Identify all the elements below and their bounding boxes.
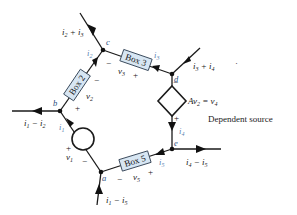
box-3: Box 3 (120, 49, 152, 70)
label-i4-minus-i5: i4 − i5 (186, 157, 208, 168)
current-arrows (32, 24, 206, 194)
arrow-e-external-icon (196, 145, 206, 153)
dependent-source-diamond (158, 86, 186, 116)
node-label-a: a (102, 173, 106, 183)
label-i1-minus-i2: i1 − i2 (24, 118, 46, 129)
dependent-source-caption: Dependent source (208, 114, 273, 124)
sign-v1-plus: + (66, 143, 71, 153)
label-i1-minus-i5: i1 − i5 (106, 195, 128, 206)
label-i3-plus-i4: i3 + i4 (193, 61, 215, 72)
arrow-i4-icon (168, 122, 176, 131)
node-label-c: c (106, 37, 110, 47)
arrow-i2-icon (92, 57, 98, 67)
sign-v4-minus: − (173, 77, 178, 87)
label-i2: i2 (87, 48, 92, 59)
arrow-i5-icon (155, 148, 165, 155)
label-v3: v3 (118, 66, 125, 77)
box-5: Box 5 (119, 151, 151, 171)
node-label-e: e (174, 138, 178, 148)
arrow-a-external-icon (95, 184, 103, 194)
node-label-b: b (53, 98, 57, 108)
sign-v4-plus: + (174, 113, 179, 123)
independent-voltage-source (72, 128, 94, 150)
sign-v1-minus: − (82, 156, 87, 166)
sign-v5-plus: + (148, 167, 153, 177)
label-v1: v1 (66, 152, 73, 163)
arrow-b-external-icon (32, 107, 42, 115)
node-b (58, 109, 63, 114)
sign-v2-minus: − (94, 75, 99, 85)
label-i2-plus-i3: i2 + i3 (62, 27, 84, 38)
sign-v3-plus: + (133, 70, 138, 80)
sign-v2-plus: + (75, 103, 80, 113)
node-c (101, 48, 106, 53)
label-v2: v2 (86, 91, 93, 102)
sign-v3-minus: − (106, 58, 111, 68)
label-i4: i4 (179, 126, 184, 137)
circuit-diagram: Box 2 Box 3 Box 5 c (0, 0, 297, 215)
label-i3: i3 (154, 50, 159, 61)
label-v5: v5 (133, 172, 140, 183)
sign-v5-minus: − (117, 174, 122, 184)
arrow-i3-icon (152, 65, 160, 72)
label-i1: i1 (59, 122, 64, 133)
stray-dot: · (235, 58, 238, 68)
label-i5: i5 (159, 157, 164, 168)
arrow-c-external-icon (87, 24, 96, 36)
dependent-source-equation: Av2 = v4 (187, 96, 218, 107)
